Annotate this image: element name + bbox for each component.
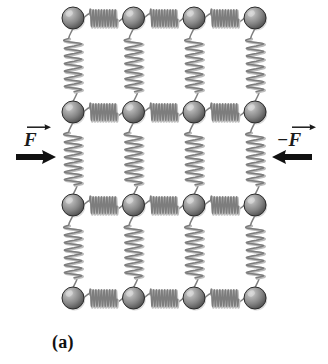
force-arrow-right (0, 0, 328, 364)
figure-canvas: F − F (a) (0, 0, 328, 364)
figure-caption: (a) (52, 332, 74, 353)
